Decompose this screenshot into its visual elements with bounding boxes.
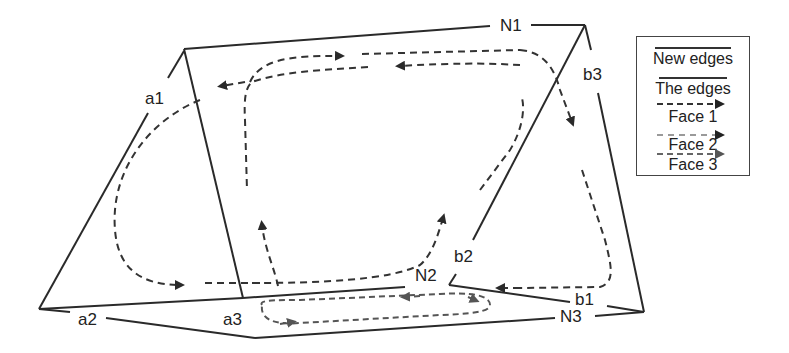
face3-path xyxy=(261,293,490,324)
label-a2: a2 xyxy=(78,311,97,328)
edge-inner-right xyxy=(473,25,585,240)
legend-label-the-edges: The edges xyxy=(637,81,749,97)
face1-path xyxy=(115,50,611,288)
label-b1: b1 xyxy=(575,291,594,308)
edge-b3-upper xyxy=(585,25,591,50)
legend-line-the-edges xyxy=(659,77,727,79)
label-a3: a3 xyxy=(223,311,242,328)
edge-base-front xyxy=(39,298,243,309)
label-a1: a1 xyxy=(145,90,164,107)
edge-a1-upper xyxy=(168,51,184,78)
label-b3: b3 xyxy=(583,66,602,83)
label-N3: N3 xyxy=(560,308,582,325)
edge-top xyxy=(184,26,490,49)
face2-path xyxy=(222,64,523,286)
label-N2: N2 xyxy=(415,267,437,284)
edge-inner-left xyxy=(184,49,243,298)
legend-line-new-edges xyxy=(655,47,731,49)
legend-label-face3: Face 3 xyxy=(637,157,749,173)
edge-a2-tick xyxy=(39,309,70,312)
edge-N3-right xyxy=(595,312,644,316)
edge-a1-lower xyxy=(39,113,148,309)
legend-label-new-edges: New edges xyxy=(637,51,749,67)
edge-bottom-N3 xyxy=(255,318,555,338)
edge-b1-right xyxy=(607,306,644,312)
edge-b2-tick xyxy=(449,274,456,285)
legend-label-face1: Face 1 xyxy=(637,109,749,125)
label-N1: N1 xyxy=(500,17,522,34)
legend: New edges The edges Face 1 Face 2 Face 3 xyxy=(636,36,750,176)
label-b2: b2 xyxy=(454,248,473,265)
